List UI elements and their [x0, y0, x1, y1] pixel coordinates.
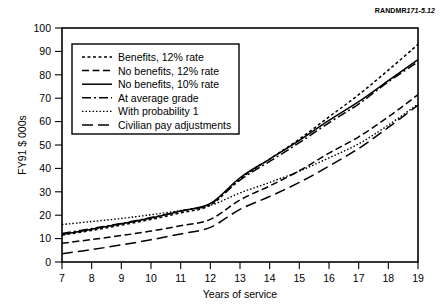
x-tick-label: 16: [323, 272, 335, 284]
legend-item-label: At average grade: [118, 92, 199, 104]
legend-item-label: Civilian pay adjustments: [118, 119, 231, 131]
y-tick-label: 20: [39, 209, 51, 221]
x-tick-label: 19: [412, 272, 424, 284]
y-tick-label: 70: [39, 92, 51, 104]
figure-container: RANDMR171-5.12 0102030405060708090100 78…: [0, 0, 442, 308]
y-tick-label: 90: [39, 45, 51, 57]
x-axis-tick-labels: 78910111213141516171819: [59, 272, 424, 284]
y-tick-label: 40: [39, 162, 51, 174]
line-chart: 0102030405060708090100 78910111213141516…: [0, 0, 442, 308]
report-figure-id-number: 171-5.12: [407, 7, 435, 14]
legend-item-label: With probability 1: [118, 105, 199, 117]
y-tick-label: 10: [39, 232, 51, 244]
x-tick-label: 9: [118, 272, 124, 284]
x-tick-label: 14: [264, 272, 276, 284]
report-figure-id: RANDMR171-5.12: [375, 7, 435, 14]
y-tick-label: 80: [39, 69, 51, 81]
x-axis-ticks: [62, 262, 418, 269]
x-tick-label: 10: [145, 272, 157, 284]
legend-item-label: No benefits, 12% rate: [118, 65, 219, 77]
x-tick-label: 8: [89, 272, 95, 284]
x-tick-label: 13: [234, 272, 246, 284]
x-tick-label: 11: [175, 272, 186, 284]
x-tick-label: 12: [204, 272, 216, 284]
y-tick-label: 0: [45, 256, 51, 268]
y-tick-label: 100: [33, 22, 51, 34]
y-axis-title: FY91 $ 000s: [16, 115, 28, 175]
x-axis-title: Years of service: [203, 288, 277, 300]
y-tick-label: 30: [39, 186, 51, 198]
legend-item-label: Benefits, 12% rate: [118, 51, 204, 63]
x-tick-label: 18: [382, 272, 394, 284]
report-figure-id-prefix: RANDMR: [375, 7, 407, 14]
y-axis-tick-labels: 0102030405060708090100: [33, 22, 51, 268]
y-tick-label: 50: [39, 139, 51, 151]
x-tick-label: 7: [59, 272, 65, 284]
y-axis-ticks: [55, 28, 62, 262]
x-tick-label: 15: [293, 272, 305, 284]
legend-item-label: No benefits, 10% rate: [118, 78, 219, 90]
chart-legend: Benefits, 12% rateNo benefits, 12% rateN…: [72, 44, 239, 134]
x-tick-label: 17: [353, 272, 365, 284]
y-tick-label: 60: [39, 115, 51, 127]
